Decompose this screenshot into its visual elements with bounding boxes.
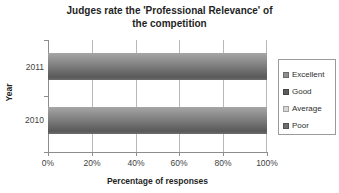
legend-label-excellent: Excellent [292, 70, 324, 79]
y-tick-label-2011: 2011 [16, 62, 44, 72]
legend-item-poor: Poor [283, 117, 335, 134]
legend-item-excellent: Excellent [283, 66, 335, 83]
chart-title: Judges rate the 'Professional Relevance'… [30, 4, 309, 30]
legend-label-average: Average [292, 104, 322, 113]
bar-2011 [48, 53, 267, 80]
x-axis-tick-100 [267, 152, 268, 156]
legend-item-average: Average [283, 100, 335, 117]
chart-title-line-1: Judges rate the 'Professional Relevance'… [30, 4, 309, 17]
bar-2010 [48, 107, 267, 134]
y-axis-title: Year [4, 73, 15, 113]
y-tick-label-2010: 2010 [16, 115, 44, 125]
x-axis-tick-40 [136, 152, 137, 156]
legend-label-poor: Poor [292, 121, 309, 130]
x-tick-label-20: 20% [76, 158, 108, 168]
x-axis-tick-80 [223, 152, 224, 156]
x-axis-title: Percentage of responses [48, 176, 267, 186]
x-tick-label-80: 80% [207, 158, 239, 168]
y-axis-tick-middle [44, 96, 48, 97]
x-tick-label-40: 40% [120, 158, 152, 168]
x-tick-label-100: 100% [251, 158, 283, 168]
legend-marker-poor-icon [283, 123, 289, 129]
x-tick-label-60: 60% [163, 158, 195, 168]
x-axis-tick-0 [48, 152, 49, 156]
y-axis-tick-bottom [44, 152, 48, 153]
x-tick-label-0: 0% [32, 158, 64, 168]
y-axis-tick-top [44, 40, 48, 41]
legend: Excellent Good Average Poor [278, 59, 336, 135]
x-axis-tick-60 [179, 152, 180, 156]
plot-area [48, 40, 267, 152]
x-axis-line [48, 152, 268, 153]
legend-marker-average-icon [283, 106, 289, 112]
legend-label-good: Good [292, 87, 312, 96]
x-axis-tick-20 [92, 152, 93, 156]
legend-marker-excellent-icon [283, 72, 289, 78]
bar-chart: Judges rate the 'Professional Relevance'… [0, 0, 339, 193]
chart-title-line-2: the competition [30, 17, 309, 30]
legend-marker-good-icon [283, 89, 289, 95]
legend-item-good: Good [283, 83, 335, 100]
